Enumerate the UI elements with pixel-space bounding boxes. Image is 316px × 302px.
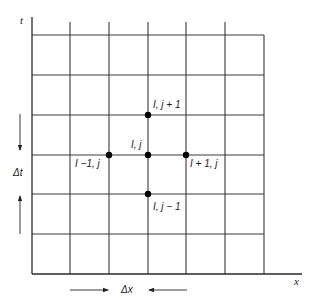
node-right: [183, 152, 189, 158]
node-right-label: I + 1, j: [190, 158, 218, 169]
t-axis-label: t: [20, 14, 24, 26]
node-up-label: I, j + 1: [153, 99, 181, 110]
node-center-label: I, j: [131, 139, 142, 150]
finite-difference-grid: t x I, j I, j + 1 I, j − 1 I −1, j I + 1…: [0, 0, 316, 302]
node-up: [145, 112, 151, 118]
node-left: [106, 152, 112, 158]
grid-lines: [32, 22, 264, 274]
node-down-label: I, j − 1: [153, 201, 181, 212]
x-axis-label: x: [293, 275, 299, 287]
dx-label: Δx: [120, 284, 134, 295]
node-down: [145, 191, 151, 197]
dt-label: Δt: [12, 167, 24, 178]
node-center: [145, 152, 151, 158]
node-left-label: I −1, j: [75, 158, 101, 169]
